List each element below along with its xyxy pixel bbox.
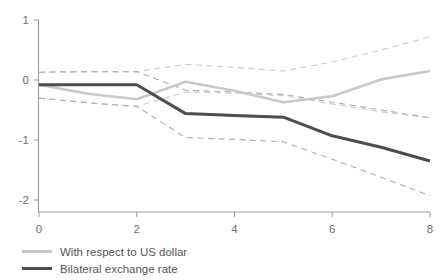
legend-item-bilateral: Bilateral exchange rate <box>22 260 322 277</box>
x-tick-label-8: 8 <box>427 223 433 235</box>
x-axis-tick-labels: 0 2 4 6 8 <box>36 223 433 235</box>
series-lines <box>39 71 430 161</box>
chart-container: 1 0 -1 -2 0 2 4 6 8 With respect <box>0 0 445 280</box>
legend-item-usd: With respect to US dollar <box>22 243 322 260</box>
series-line-bilateral <box>39 85 430 161</box>
y-tick-label-neg1: -1 <box>19 134 29 146</box>
chart-plot-area: 1 0 -1 -2 0 2 4 6 8 <box>0 0 445 280</box>
y-tick-label-1: 1 <box>23 14 29 26</box>
confidence-band <box>39 37 430 72</box>
chart-legend: With respect to US dollar Bilateral exch… <box>22 243 322 277</box>
x-tick-label-0: 0 <box>36 223 42 235</box>
y-tick-label-neg2: -2 <box>19 194 29 206</box>
x-tick-label-6: 6 <box>329 223 335 235</box>
series-line-usd <box>39 71 430 102</box>
legend-label-usd: With respect to US dollar <box>60 245 187 259</box>
legend-swatch-bilateral-icon <box>22 267 52 270</box>
confidence-band <box>39 98 430 196</box>
legend-swatch-usd-icon <box>22 250 52 253</box>
y-axis-ticks <box>34 20 39 200</box>
x-tick-label-2: 2 <box>133 223 139 235</box>
y-axis-tick-labels: 1 0 -1 -2 <box>19 14 29 206</box>
legend-label-bilateral: Bilateral exchange rate <box>60 262 178 276</box>
x-axis-ticks <box>39 212 430 217</box>
y-tick-label-0: 0 <box>23 74 29 86</box>
x-tick-label-4: 4 <box>231 223 238 235</box>
